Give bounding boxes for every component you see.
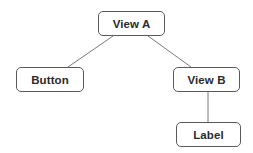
node-label: View B — [187, 74, 225, 86]
tree-diagram: View A Button View B Label — [0, 0, 253, 153]
node-label: Label — [176, 122, 241, 147]
edge-view-a-to-view-b — [148, 36, 191, 67]
node-button: Button — [16, 67, 84, 92]
node-label-text: Label — [193, 129, 224, 141]
node-view-b: View B — [173, 67, 240, 92]
node-label: View A — [113, 18, 151, 30]
node-label: Button — [31, 74, 69, 86]
node-view-a: View A — [98, 11, 165, 36]
edge-view-a-to-button — [68, 36, 113, 67]
